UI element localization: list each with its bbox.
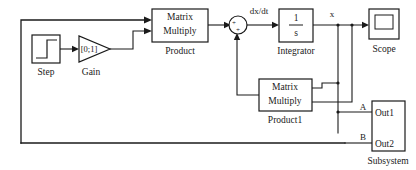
product-block-label: Product <box>165 46 195 56</box>
subsystem-block-label: Subsystem <box>367 156 409 166</box>
block-product1[interactable]: Matrix Multiply Product1 <box>259 79 312 125</box>
wire-product1-to-sum <box>234 33 259 95</box>
subsystem-out2-label: Out2 <box>375 139 394 149</box>
product-line1-label: Matrix <box>167 12 193 22</box>
product-line2-label: Multiply <box>163 26 197 36</box>
integrator-block-label: Integrator <box>277 46 315 56</box>
step-block-body[interactable] <box>32 35 60 63</box>
block-integrator[interactable]: 1 s Integrator <box>277 9 315 56</box>
integrator-numerator-label: 1 <box>294 13 299 23</box>
block-sum[interactable]: + + <box>229 16 247 34</box>
junction-dot-p1b <box>350 23 353 26</box>
product1-line2-label: Multiply <box>268 96 302 106</box>
wire-gain-to-product <box>110 28 152 49</box>
gain-block-label: Gain <box>82 67 101 77</box>
wire-x-branch-down <box>336 23 339 133</box>
signal-label-x: x <box>330 9 335 19</box>
arrowhead-integrator-in <box>272 22 279 28</box>
diagram-svg: Step [0;1] Gain Matrix Multiply Product … <box>0 0 416 170</box>
block-scope[interactable]: Scope <box>369 9 399 54</box>
arrowhead-product-in1 <box>144 17 152 24</box>
product1-line1-label: Matrix <box>272 82 298 92</box>
signal-label-dxdt: dx/dt <box>250 6 269 16</box>
scope-block-label: Scope <box>372 44 395 54</box>
block-product[interactable]: Matrix Multiply Product <box>152 9 208 56</box>
block-diagram-canvas: Step [0;1] Gain Matrix Multiply Product … <box>0 0 416 170</box>
signal-label-a: A <box>360 102 367 112</box>
product1-block-label: Product1 <box>268 115 303 125</box>
signal-label-b: B <box>360 132 366 142</box>
wire-sum-to-integrator <box>245 22 279 28</box>
gain-value-label: [0;1] <box>81 44 98 54</box>
junction-dot-x <box>336 23 339 26</box>
scope-icon <box>375 15 393 29</box>
arrowhead-scope-in <box>362 22 369 28</box>
wire-step-to-gain <box>60 46 79 52</box>
sum-sign-2-label: + <box>236 26 240 34</box>
wire-product-to-sum <box>208 22 231 28</box>
integrator-denominator-label: s <box>294 28 298 38</box>
junction-dot-p1a <box>336 81 339 84</box>
arrowhead-gain-in <box>72 46 79 52</box>
junction-dot-a <box>336 110 339 113</box>
wire-integrator-to-scope <box>313 22 369 28</box>
block-gain[interactable]: [0;1] Gain <box>79 36 110 77</box>
block-step[interactable]: Step <box>32 35 60 77</box>
wire-x-to-subsystem-a <box>336 110 372 113</box>
subsystem-out1-label: Out1 <box>375 108 394 118</box>
block-subsystem[interactable]: Out1 Out2 Subsystem <box>367 101 409 166</box>
step-block-label: Step <box>38 67 55 77</box>
arrowhead-product-in2 <box>144 28 152 34</box>
